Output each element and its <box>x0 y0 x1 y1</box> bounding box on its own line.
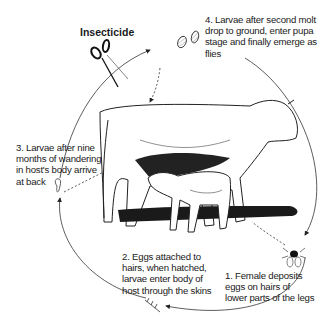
stage-2-label: 2. Eggs attached to hairs, when hatched,… <box>122 251 211 296</box>
pupa-icon <box>176 30 200 49</box>
eggs-on-hair-icon <box>145 298 160 312</box>
insecticide-label: Insecticide <box>80 26 134 38</box>
fly-icon <box>282 248 306 267</box>
stage-4-label: 4. Larvae after second molt drop to grou… <box>205 14 317 59</box>
stage-3-label: 3. Larvae after nine months of wandering… <box>16 142 101 187</box>
calf-illustration <box>148 172 231 232</box>
stage-1-label: 1. Female deposits eggs on hairs of lowe… <box>225 270 314 304</box>
scissors-icon <box>89 40 128 87</box>
